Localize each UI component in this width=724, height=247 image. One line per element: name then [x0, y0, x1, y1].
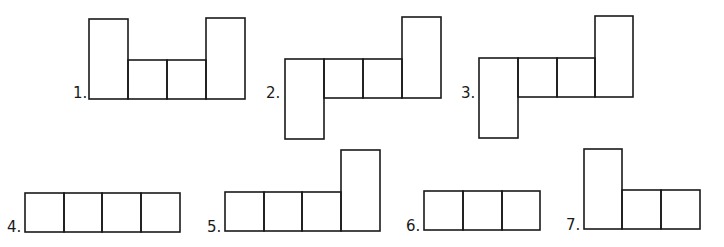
figure-cell — [363, 59, 402, 98]
figure-label: 6. — [406, 217, 420, 235]
figure-cell — [167, 60, 206, 99]
figure-cell — [225, 192, 264, 231]
figure-cell — [206, 18, 245, 99]
figure-cell — [341, 150, 380, 231]
figure-cell — [502, 191, 540, 230]
figure-cell — [584, 149, 622, 229]
figure-label: 2. — [266, 84, 280, 102]
figure-cell — [128, 60, 167, 99]
figure-6: 6. — [406, 191, 540, 235]
figure-cell — [141, 193, 180, 232]
figure-cell — [25, 193, 64, 232]
figure-cell — [264, 192, 302, 231]
figures-canvas: 1.2.3.4.5.6.7. — [0, 0, 724, 247]
figure-label: 1. — [73, 84, 87, 102]
figure-2: 2. — [266, 17, 441, 139]
figure-cell — [463, 191, 502, 230]
figure-cell — [479, 58, 518, 138]
figure-label: 3. — [461, 84, 475, 102]
figure-cell — [402, 17, 441, 98]
figure-cell — [518, 58, 557, 97]
figure-cell — [595, 16, 633, 97]
figure-4: 4. — [7, 193, 180, 236]
figure-label: 7. — [566, 216, 580, 234]
figure-cell — [285, 59, 324, 139]
figure-cell — [64, 193, 102, 232]
figure-cell — [89, 19, 128, 99]
figure-3: 3. — [461, 16, 633, 138]
figure-7: 7. — [566, 149, 700, 234]
figure-cell — [622, 190, 661, 229]
figure-cell — [557, 58, 595, 97]
figure-label: 5. — [207, 218, 221, 236]
figure-cell — [324, 59, 363, 98]
figure-cell — [302, 192, 341, 231]
figure-1: 1. — [73, 18, 245, 102]
figure-label: 4. — [7, 218, 21, 236]
figure-5: 5. — [207, 150, 380, 236]
figure-cell — [102, 193, 141, 232]
figure-cell — [424, 191, 463, 230]
figure-cell — [661, 190, 700, 229]
